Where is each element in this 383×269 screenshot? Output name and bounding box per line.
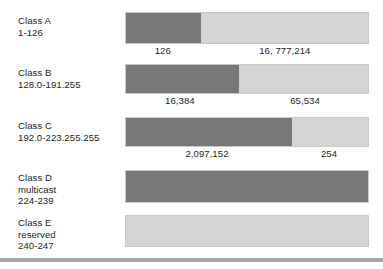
class-label-b-line-2: 128.0-191.255 — [18, 79, 123, 91]
footer-divider — [0, 258, 383, 262]
class-values-c: 2,097,152 254 — [125, 147, 369, 161]
class-bar-b — [125, 64, 369, 94]
class-b-host-value: 65,534 — [290, 94, 320, 108]
class-bar-e-reserved-segment — [126, 216, 368, 246]
class-label-c: Class C 192.0-223.255.255 — [18, 120, 123, 143]
class-label-d-line-2: multicast — [18, 184, 123, 196]
class-b-network-value: 16,384 — [165, 94, 195, 108]
class-bar-c-network-segment — [126, 118, 292, 146]
class-bar-a — [125, 12, 369, 44]
class-a-host-value: 16, 777,214 — [259, 44, 310, 58]
class-values-b: 16,384 65,534 — [125, 94, 369, 108]
class-label-e-line-3: 240-247 — [18, 240, 123, 252]
class-bar-a-host-segment — [201, 13, 368, 43]
class-bar-b-network-segment — [126, 65, 239, 93]
class-label-c-line-1: Class C — [18, 120, 123, 132]
class-label-e: Class E reserved 240-247 — [18, 217, 123, 252]
class-c-host-value: 254 — [321, 147, 337, 161]
class-label-a-line-2: 1-126 — [18, 27, 123, 39]
class-label-a-line-1: Class A — [18, 15, 123, 27]
ip-address-class-diagram: Class A 1-126 126 16, 777,214 Class B 12… — [0, 0, 383, 269]
class-label-d-line-1: Class D — [18, 172, 123, 184]
class-bar-a-network-segment — [126, 13, 201, 43]
class-label-b: Class B 128.0-191.255 — [18, 67, 123, 90]
class-bar-e — [125, 215, 369, 247]
class-label-e-line-2: reserved — [18, 229, 123, 241]
class-label-d: Class D multicast 224-239 — [18, 172, 123, 207]
class-values-a: 126 16, 777,214 — [125, 44, 369, 58]
class-bar-c — [125, 117, 369, 147]
class-bar-d — [125, 170, 369, 203]
class-c-network-value: 2,097,152 — [185, 147, 228, 161]
class-label-e-line-1: Class E — [18, 217, 123, 229]
class-label-c-line-2: 192.0-223.255.255 — [18, 132, 123, 144]
class-label-d-line-3: 224-239 — [18, 195, 123, 207]
class-a-network-value: 126 — [155, 44, 171, 58]
class-label-b-line-1: Class B — [18, 67, 123, 79]
class-bar-d-multicast-segment — [126, 171, 368, 202]
class-bar-b-host-segment — [239, 65, 368, 93]
class-label-a: Class A 1-126 — [18, 15, 123, 38]
class-bar-c-host-segment — [292, 118, 368, 146]
